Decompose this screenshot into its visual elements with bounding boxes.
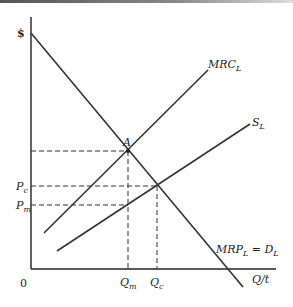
mrp-demand-curve [31, 33, 243, 287]
mrc-label: MRCL [207, 58, 241, 73]
qc-label: Qc [150, 276, 164, 291]
pc-label: Pc [15, 180, 28, 195]
x-axis-label: Q/t [252, 273, 270, 286]
monopsony-diagram: $ 0 Q/t A MRCL SL MRPL = DL Pc Pm Qm Qc [0, 0, 293, 307]
origin-label: 0 [20, 277, 27, 290]
qm-label: Qm [120, 276, 137, 291]
pm-label: Pm [15, 199, 31, 214]
supply-curve [57, 124, 250, 251]
point-a-label: A [122, 136, 131, 149]
point-a-marker [126, 149, 130, 153]
supply-label: SL [252, 116, 265, 131]
y-axis-label: $ [17, 27, 25, 40]
mrc-curve [44, 70, 208, 233]
mrp-demand-label: MRPL = DL [215, 243, 279, 258]
